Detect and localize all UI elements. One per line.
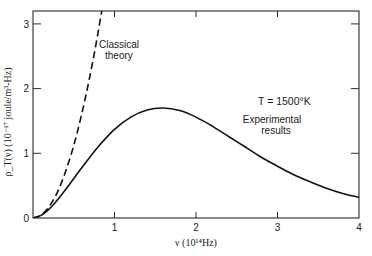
y-tick-label-0: 0 [23, 213, 29, 224]
experimental-label-line1: Experimental [243, 114, 301, 125]
x-axis-title: ν (10¹⁴Hz) [175, 237, 217, 249]
y-tick-label-2: 2 [23, 83, 29, 94]
temperature-label: T = 1500°K [258, 95, 311, 107]
x-tick-label-3: 3 [275, 222, 281, 233]
blackbody-spectrum-chart: 1 2 3 4 0 1 2 3 ν (10¹⁴Hz) ρ_T(ν) (10⁻¹⁷… [0, 0, 372, 256]
y-axis-title: ρ_T(ν) (10⁻¹⁷ joule/m³-Hz) [2, 68, 14, 177]
x-tick-label-1: 1 [112, 222, 118, 233]
experimental-results-curve [33, 108, 359, 218]
experimental-label-line2: results [261, 125, 290, 136]
x-tick-label-4: 4 [356, 222, 362, 233]
y-tick-label-1: 1 [23, 148, 29, 159]
x-tick-label-2: 2 [193, 222, 199, 233]
y-axis-ticks [33, 24, 359, 153]
classical-label-line1: Classical [99, 39, 139, 50]
classical-label-line2: theory [105, 50, 133, 61]
plot-frame [33, 11, 359, 218]
y-tick-label-3: 3 [23, 19, 29, 30]
